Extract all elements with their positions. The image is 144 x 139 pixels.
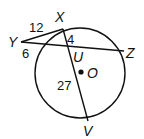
label-x: X: [54, 9, 65, 25]
label-z: Z: [125, 45, 135, 61]
label-u: U: [73, 49, 84, 65]
center-point-o: [78, 69, 83, 74]
geometry-diagram: X Y Z U O V 12 6 4 27: [0, 0, 144, 139]
label-o: O: [87, 65, 98, 81]
length-6: 6: [22, 46, 29, 61]
length-12: 12: [29, 20, 43, 35]
label-v: V: [83, 123, 94, 139]
length-4: 4: [67, 32, 74, 47]
label-y: Y: [8, 34, 19, 50]
length-27: 27: [57, 78, 71, 93]
